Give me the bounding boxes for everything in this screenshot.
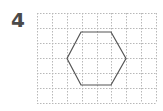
dotted-grid [0, 0, 163, 111]
hexagon-shape [67, 32, 126, 85]
grid-lines [37, 13, 157, 104]
